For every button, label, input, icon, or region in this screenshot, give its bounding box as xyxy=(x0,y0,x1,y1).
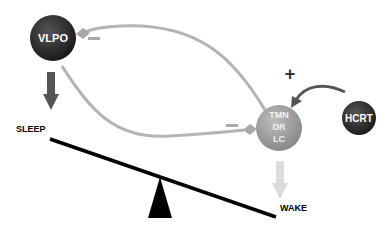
sleep-arrow-shaft xyxy=(47,72,55,94)
vlpo-label: VLPO xyxy=(38,32,68,44)
hcrt-label: HCRT xyxy=(345,113,373,124)
plus-sign: + xyxy=(285,64,296,84)
sleep-wake-flipflop-diagram: + VLPO TMN DR LC HCRT SLEEP WAKE xyxy=(0,0,391,228)
vlpo-node: VLPO xyxy=(30,15,76,61)
hcrt-node: HCRT xyxy=(342,101,376,135)
fulcrum-triangle-icon xyxy=(148,177,172,218)
tmn-label: TMN xyxy=(269,110,289,120)
wake-arrow-shaft xyxy=(276,161,284,183)
vlpo-to-tmn-inhibition-path xyxy=(62,66,244,136)
sleep-label: SLEEP xyxy=(16,124,46,134)
wake-label: WAKE xyxy=(280,203,307,213)
dr-label: DR xyxy=(273,122,286,132)
inhibition-diamond-icon xyxy=(243,124,257,135)
minus-sign-icon xyxy=(88,37,100,40)
sleep-arrow-icon xyxy=(43,94,59,110)
lc-label: LC xyxy=(273,134,285,144)
tmn-to-vlpo-inhibition-path xyxy=(85,26,265,110)
minus-sign-icon xyxy=(226,124,238,127)
hcrt-to-tmn-excitation-path xyxy=(296,86,345,100)
wake-arrow-icon xyxy=(272,183,288,199)
tmn-dr-lc-node: TMN DR LC xyxy=(256,105,302,151)
